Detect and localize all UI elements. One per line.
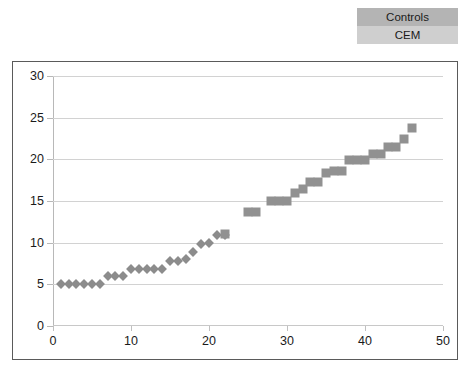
x-tick-mark [443, 326, 444, 331]
x-tick-label: 50 [436, 334, 450, 348]
x-tick-mark [365, 326, 366, 331]
gridline [53, 201, 443, 202]
legend-label-controls: Controls [386, 11, 429, 23]
data-point [181, 254, 191, 264]
x-tick-label: 30 [280, 334, 294, 348]
x-tick-label: 10 [124, 334, 138, 348]
y-tick-label: 20 [30, 152, 44, 166]
x-tick-mark [209, 326, 210, 331]
y-tick-mark [47, 284, 53, 285]
y-tick-label: 0 [37, 319, 44, 333]
data-point [392, 142, 401, 151]
y-tick-mark [47, 76, 53, 77]
data-point [283, 197, 292, 206]
legend-entry-cem: CEM [357, 26, 458, 44]
y-tick-label: 25 [30, 111, 44, 125]
legend-label-cem: CEM [395, 29, 421, 41]
gridline [53, 118, 443, 119]
data-point [188, 247, 198, 257]
legend-entry-controls: Controls [357, 8, 458, 26]
x-tick-mark [287, 326, 288, 331]
y-tick-mark [47, 118, 53, 119]
chart-legend: Controls CEM [357, 8, 458, 44]
y-tick-mark [47, 201, 53, 202]
x-tick-label: 0 [50, 334, 57, 348]
gridline [53, 243, 443, 244]
data-point [251, 207, 260, 216]
y-tick-label: 15 [30, 194, 44, 208]
x-tick-mark [53, 326, 54, 331]
data-point [314, 177, 323, 186]
y-tick-label: 5 [37, 277, 44, 291]
x-axis-line [53, 325, 443, 326]
x-tick-label: 20 [202, 334, 216, 348]
gridline [53, 284, 443, 285]
x-tick-mark [131, 326, 132, 331]
data-point [157, 264, 167, 274]
data-point [204, 238, 214, 248]
y-tick-mark [47, 243, 53, 244]
gridline [53, 76, 443, 77]
data-point [220, 230, 229, 239]
data-point [407, 123, 416, 132]
gridline [53, 159, 443, 160]
chart-frame: 051015202530 01020304050 [12, 61, 458, 360]
x-tick-label: 40 [358, 334, 372, 348]
data-point [95, 279, 105, 289]
data-point [118, 271, 128, 281]
y-tick-mark [47, 159, 53, 160]
plot-area: 051015202530 01020304050 [53, 76, 443, 326]
data-point [337, 167, 346, 176]
data-point [400, 134, 409, 143]
y-tick-label: 30 [30, 69, 44, 83]
y-tick-label: 10 [30, 236, 44, 250]
